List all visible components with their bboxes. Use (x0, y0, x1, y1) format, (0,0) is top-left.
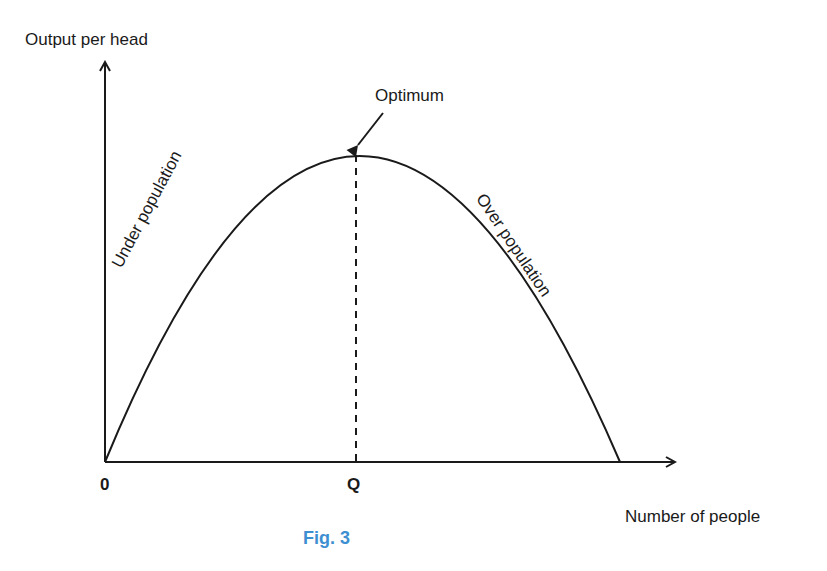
output-curve (105, 156, 620, 462)
origin-label: 0 (100, 475, 109, 495)
optimum-label: Optimum (375, 86, 444, 106)
optimum-arrow (358, 113, 383, 145)
y-axis-label: Output per head (25, 30, 148, 50)
x-axis-label: Number of people (625, 507, 760, 527)
q-label: Q (347, 475, 360, 495)
figure-caption: Fig. 3 (303, 528, 350, 549)
